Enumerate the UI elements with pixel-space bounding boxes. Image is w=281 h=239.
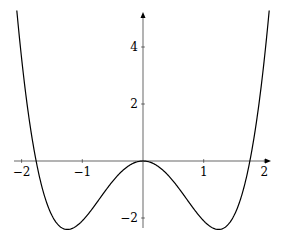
x-ticks: −2−112 (13, 159, 268, 179)
x-tick-label: 2 (261, 165, 269, 179)
x-tick-label: 1 (200, 165, 208, 179)
y-tick-label: −2 (120, 211, 138, 225)
y-ticks: −224 (120, 40, 145, 225)
y-tick-label: 2 (130, 97, 138, 111)
x-tick-label: −2 (13, 165, 31, 179)
y-tick-label: 4 (130, 40, 138, 54)
function-plot: −2−112 −224 (0, 0, 281, 239)
x-tick-label: −1 (73, 165, 91, 179)
y-axis (141, 12, 146, 228)
